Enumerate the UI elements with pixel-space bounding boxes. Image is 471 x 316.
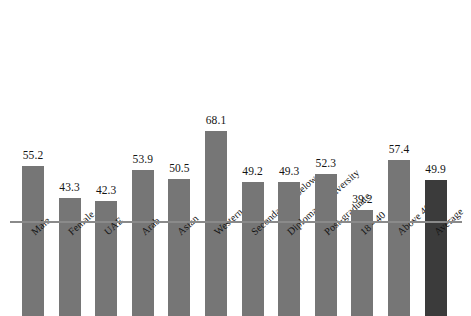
bar-value-label: 42.3 <box>84 184 128 197</box>
bar-chart: 55.2Male43.3Female42.3UAE53.9Arab50.5Asi… <box>0 0 471 316</box>
bar-group: 49.2 <box>242 95 264 316</box>
bar <box>278 182 300 316</box>
bar-group: 68.1 <box>205 95 227 316</box>
bar-value-label: 39.2 <box>340 193 384 206</box>
bar-group: 42.3 <box>95 95 117 316</box>
bar <box>22 166 44 316</box>
bar <box>59 198 81 316</box>
x-axis-line <box>10 221 462 223</box>
bar-group: 57.4 <box>388 95 410 316</box>
bar-value-label: 52.3 <box>304 157 348 170</box>
bar-group: 49.3 <box>278 95 300 316</box>
bar <box>132 170 154 316</box>
bar-value-label: 49.9 <box>414 163 458 176</box>
plot-area: 55.2Male43.3Female42.3UAE53.9Arab50.5Asi… <box>0 0 471 316</box>
bar-value-label: 68.1 <box>194 114 238 127</box>
bar-group: 52.3 <box>315 95 337 316</box>
bar-value-label: 57.4 <box>377 143 421 156</box>
bar-value-label: 50.5 <box>157 162 201 175</box>
bar-group: 53.9 <box>132 95 154 316</box>
bar <box>168 179 190 316</box>
bar <box>388 160 410 316</box>
bar-group: 50.5 <box>168 95 190 316</box>
bar-group: 39.2 <box>351 95 373 316</box>
bar <box>425 180 447 316</box>
bar-group: 55.2 <box>22 95 44 316</box>
bar-value-label: 55.2 <box>11 149 55 162</box>
bar-group: 49.9 <box>425 95 447 316</box>
bar <box>242 182 264 316</box>
bar <box>315 174 337 316</box>
bar-group: 43.3 <box>59 95 81 316</box>
